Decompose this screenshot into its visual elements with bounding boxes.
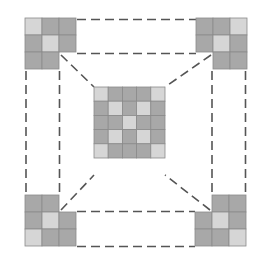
dark-cell xyxy=(212,229,229,246)
dark-cell xyxy=(137,144,151,158)
dark-cell xyxy=(230,52,247,69)
dark-cell xyxy=(137,115,151,129)
light-cell xyxy=(230,18,247,35)
dark-cell xyxy=(230,35,247,52)
dark-cell xyxy=(59,212,76,229)
dark-cell xyxy=(94,101,108,115)
corner-piece-top-right xyxy=(196,18,247,69)
dark-cell xyxy=(212,195,229,212)
dark-cell xyxy=(122,87,136,101)
dark-cell xyxy=(59,18,76,35)
dark-cell xyxy=(25,195,42,212)
light-cell xyxy=(42,35,59,52)
dark-cell xyxy=(108,144,122,158)
diagonal-bottom-left xyxy=(61,175,94,210)
dark-cell xyxy=(229,212,246,229)
checkerboard-diagram xyxy=(0,0,261,273)
light-cell xyxy=(108,130,122,144)
dark-cell xyxy=(94,130,108,144)
dark-cell xyxy=(151,115,165,129)
dark-cell xyxy=(151,101,165,115)
dark-cell xyxy=(151,130,165,144)
light-cell xyxy=(151,87,165,101)
dark-cell xyxy=(42,229,59,246)
light-cell xyxy=(229,229,246,246)
dark-cell xyxy=(213,52,230,69)
diagonal-top-right xyxy=(165,55,211,87)
dark-cell xyxy=(42,195,59,212)
dark-cell xyxy=(25,212,42,229)
corner-piece-bottom-left xyxy=(25,195,76,246)
center-grid xyxy=(94,87,165,158)
dark-cell xyxy=(229,195,246,212)
light-cell xyxy=(137,101,151,115)
dark-cell xyxy=(122,101,136,115)
dark-cell xyxy=(108,115,122,129)
dark-cell xyxy=(195,229,212,246)
light-cell xyxy=(212,212,229,229)
corner-piece-bottom-right xyxy=(195,195,246,246)
dark-cell xyxy=(42,18,59,35)
corner-piece-top-left xyxy=(25,18,76,69)
dark-cell xyxy=(195,212,212,229)
diagonal-bottom-right xyxy=(165,175,210,210)
dark-cell xyxy=(59,229,76,246)
dark-cell xyxy=(196,18,213,35)
light-cell xyxy=(94,87,108,101)
light-cell xyxy=(25,18,42,35)
dark-cell xyxy=(42,52,59,69)
diagonal-top-left xyxy=(61,55,94,87)
dark-cell xyxy=(108,87,122,101)
dark-cell xyxy=(59,35,76,52)
dark-cell xyxy=(122,144,136,158)
light-cell xyxy=(25,229,42,246)
dark-cell xyxy=(213,18,230,35)
dark-cell xyxy=(25,35,42,52)
light-cell xyxy=(137,130,151,144)
light-cell xyxy=(42,212,59,229)
dark-cell xyxy=(25,52,42,69)
dark-cell xyxy=(122,130,136,144)
light-cell xyxy=(94,144,108,158)
dark-cell xyxy=(94,115,108,129)
dark-cell xyxy=(137,87,151,101)
light-cell xyxy=(151,144,165,158)
light-cell xyxy=(108,101,122,115)
light-cell xyxy=(213,35,230,52)
light-cell xyxy=(122,115,136,129)
dark-cell xyxy=(196,35,213,52)
